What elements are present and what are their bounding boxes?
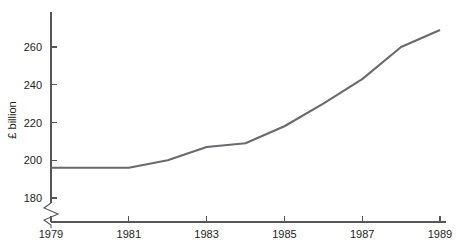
y-axis: 180200220240260 <box>24 12 58 228</box>
x-tick-label: 1989 <box>428 228 452 240</box>
x-tick-label: 1987 <box>350 228 374 240</box>
x-tick-label: 1985 <box>272 228 296 240</box>
y-tick-label: 180 <box>24 192 42 204</box>
x-tick-group: 197919811983198519871989 <box>39 216 452 240</box>
x-axis: 197919811983198519871989 <box>39 216 452 240</box>
line-chart: 180200220240260 197919811983198519871989… <box>0 0 462 251</box>
data-series-line <box>51 30 440 168</box>
x-tick-label: 1981 <box>117 228 141 240</box>
y-axis-title: £ billion <box>6 101 18 138</box>
y-tick-group: 180200220240260 <box>24 41 57 204</box>
x-tick-label: 1979 <box>39 228 63 240</box>
x-tick-label: 1983 <box>194 228 218 240</box>
y-tick-label: 260 <box>24 41 42 53</box>
y-axis-break-zigzag-icon <box>44 203 58 228</box>
y-tick-label: 220 <box>24 117 42 129</box>
y-tick-label: 240 <box>24 79 42 91</box>
chart-canvas: 180200220240260 197919811983198519871989… <box>0 0 462 251</box>
y-tick-label: 200 <box>24 154 42 166</box>
